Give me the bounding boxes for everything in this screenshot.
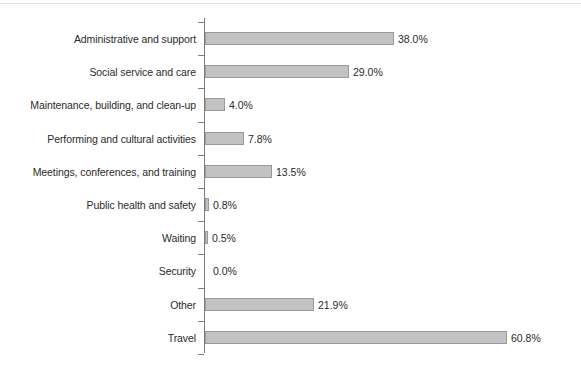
category-label: Social service and care <box>12 59 196 85</box>
bar-row: Performing and cultural activities7.8% <box>0 126 581 152</box>
category-label: Security <box>12 258 196 284</box>
axis-tick <box>198 55 204 56</box>
axis-tick <box>198 22 204 23</box>
category-label: Meetings, conferences, and training <box>12 159 196 185</box>
axis-tick <box>198 254 204 255</box>
category-label: Performing and cultural activities <box>12 126 196 152</box>
bar-value-label: 29.0% <box>353 59 383 85</box>
axis-tick <box>198 122 204 123</box>
axis-tick <box>198 88 204 89</box>
bar-value-label: 0.0% <box>213 258 237 284</box>
bar-value-label: 0.8% <box>213 192 237 218</box>
category-label: Waiting <box>12 225 196 251</box>
bar-value-label: 13.5% <box>276 159 306 185</box>
bar <box>205 98 225 111</box>
bar-row: Administrative and support38.0% <box>0 26 581 52</box>
category-label: Travel <box>12 325 196 351</box>
category-label: Administrative and support <box>12 26 196 52</box>
category-label: Maintenance, building, and clean-up <box>12 92 196 118</box>
axis-tick <box>198 221 204 222</box>
plot-area: Administrative and support38.0%Social se… <box>0 0 581 371</box>
bar-row: Maintenance, building, and clean-up4.0% <box>0 92 581 118</box>
axis-tick <box>198 188 204 189</box>
bar <box>205 165 272 178</box>
bar <box>205 198 209 211</box>
axis-tick <box>198 155 204 156</box>
category-label: Other <box>12 292 196 318</box>
axis-tick <box>198 354 204 355</box>
bar-value-label: 21.9% <box>318 292 348 318</box>
bar-chart: Administrative and support38.0%Social se… <box>0 0 581 371</box>
bar-value-label: 4.0% <box>229 92 253 118</box>
bar-row: Security0.0% <box>0 258 581 284</box>
bar-row: Travel60.8% <box>0 325 581 351</box>
bar-value-label: 38.0% <box>398 26 428 52</box>
bar <box>205 298 314 311</box>
category-label: Public health and safety <box>12 192 196 218</box>
bar <box>205 132 244 145</box>
bar-row: Social service and care29.0% <box>0 59 581 85</box>
bar <box>205 231 208 244</box>
axis-tick <box>198 321 204 322</box>
bar-row: Waiting0.5% <box>0 225 581 251</box>
bar <box>205 65 349 78</box>
bar <box>205 32 394 45</box>
bar-row: Meetings, conferences, and training13.5% <box>0 159 581 185</box>
bar-row: Other21.9% <box>0 292 581 318</box>
bar-row: Public health and safety0.8% <box>0 192 581 218</box>
axis-tick <box>198 288 204 289</box>
bar-value-label: 7.8% <box>248 126 272 152</box>
bar <box>205 331 507 344</box>
bar-value-label: 60.8% <box>511 325 541 351</box>
bar-value-label: 0.5% <box>212 225 236 251</box>
